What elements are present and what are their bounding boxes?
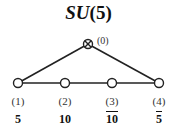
node-index-1: (1) (12, 95, 25, 107)
diagram-edges (18, 44, 159, 83)
node-rep-1: 5 (15, 112, 21, 127)
otimes-node-icon (84, 40, 93, 49)
node-4 (155, 79, 164, 88)
node-2 (61, 79, 70, 88)
extended-node-label: (0) (97, 35, 109, 46)
node-rep-2: 10 (59, 112, 71, 127)
node-rep-3-conjugate: 10 (106, 112, 118, 127)
node-1 (14, 79, 23, 88)
dynkin-diagram (0, 0, 177, 133)
node-rep-4-conjugate: 5 (156, 112, 162, 127)
node-3 (108, 79, 117, 88)
left-extended-edge (18, 44, 88, 83)
node-index-3: (3) (106, 95, 119, 107)
node-index-2: (2) (59, 95, 72, 107)
right-extended-edge (88, 44, 159, 83)
node-index-4: (4) (153, 95, 166, 107)
